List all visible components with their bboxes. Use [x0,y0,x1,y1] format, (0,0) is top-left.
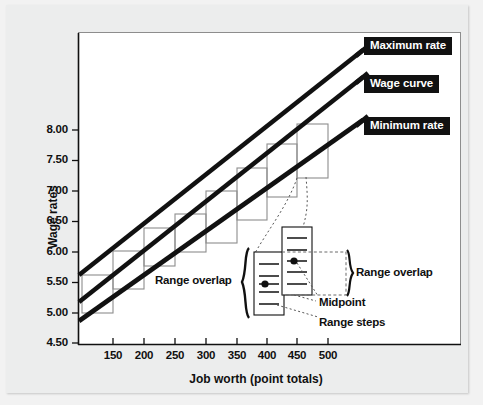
wage-curve-line [79,77,363,302]
callout-right-midpoint-dot [290,257,297,264]
maximum-rate-line [79,50,363,275]
figure-page: 8.00 7.50 7.00 6.50 6.00 5.50 5.00 4.50 … [0,0,483,405]
figure-panel: 8.00 7.50 7.00 6.50 6.00 5.50 5.00 4.50 … [6,5,468,393]
callout-left-box [254,252,284,315]
callout-left-midpoint-dot [261,280,268,287]
left-brace [242,248,249,318]
legend-item-wage-curve[interactable]: Wage curve [364,75,439,93]
callout-right-box [282,227,312,295]
annotation-range-overlap-left: Range overlap [155,274,232,286]
annotation-range-steps: Range steps [319,316,385,328]
legend-item-minimum-rate[interactable]: Minimum rate [364,117,450,135]
right-brace [347,250,353,296]
legend-item-maximum-rate[interactable]: Maximum rate [364,37,452,55]
minimum-rate-line [79,120,363,321]
chart-graphics [6,5,483,405]
annotation-range-overlap-right: Range overlap [356,266,433,278]
annotation-midpoint: Midpoint [319,296,365,308]
